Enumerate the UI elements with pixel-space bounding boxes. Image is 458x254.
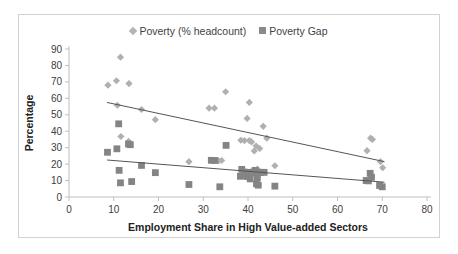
- data-point-poverty-headcount: [211, 105, 218, 112]
- y-tick-label: 20: [51, 159, 63, 170]
- data-point-poverty-gap: [186, 181, 193, 188]
- data-point-poverty-headcount: [246, 99, 253, 106]
- data-point-poverty-headcount: [363, 147, 370, 154]
- y-tick-label: 0: [56, 192, 62, 203]
- data-point-poverty-gap: [379, 183, 386, 190]
- y-axis-title: Percentage: [23, 95, 35, 152]
- data-point-poverty-headcount: [271, 162, 278, 169]
- x-tick-label: 30: [198, 204, 210, 215]
- data-point-poverty-headcount: [222, 88, 229, 95]
- data-point-poverty-gap: [117, 179, 124, 186]
- y-tick-label: 30: [51, 142, 63, 153]
- chart-frame: Poverty (% headcount) Poverty Gap 010203…: [18, 14, 440, 238]
- x-tick-label: 60: [332, 204, 344, 215]
- x-axis-title: Employment Share in High Value-added Sec…: [128, 221, 368, 233]
- x-tick-label: 50: [287, 204, 299, 215]
- x-tick-label: 40: [242, 204, 254, 215]
- y-tick-label: 10: [51, 175, 63, 186]
- data-point-poverty-headcount: [244, 115, 251, 122]
- data-point-poverty-gap: [368, 174, 375, 181]
- data-point-poverty-gap: [113, 145, 120, 152]
- data-point-poverty-gap: [128, 178, 135, 185]
- data-point-poverty-headcount: [260, 123, 267, 130]
- data-point-poverty-headcount: [113, 77, 120, 84]
- data-point-poverty-headcount: [185, 158, 192, 165]
- y-tick-label: 90: [51, 44, 63, 55]
- x-tick-label: 0: [66, 204, 72, 215]
- data-point-poverty-gap: [216, 183, 223, 190]
- data-point-poverty-headcount: [104, 82, 111, 89]
- y-tick-label: 80: [51, 60, 63, 71]
- data-point-poverty-gap: [116, 167, 123, 174]
- x-tick-label: 70: [377, 204, 389, 215]
- data-point-poverty-headcount: [152, 116, 159, 123]
- y-axis-ticks: 0102030405060708090: [51, 44, 69, 203]
- y-tick-label: 50: [51, 109, 63, 120]
- x-axis-ticks: 01020304050607080: [66, 197, 433, 215]
- trend-line: [107, 102, 384, 161]
- data-point-poverty-headcount: [379, 164, 386, 171]
- data-point-poverty-gap: [223, 142, 230, 149]
- data-point-poverty-headcount: [117, 133, 124, 140]
- x-tick-label: 20: [153, 204, 165, 215]
- data-point-poverty-gap: [104, 149, 111, 156]
- x-tick-label: 10: [108, 204, 120, 215]
- scatter-plot: 0102030405060708090 01020304050607080 Pe…: [19, 15, 441, 239]
- data-points: [104, 54, 386, 191]
- data-point-poverty-gap: [211, 157, 218, 164]
- data-point-poverty-gap: [255, 182, 262, 189]
- x-tick-label: 80: [421, 204, 433, 215]
- data-point-poverty-gap: [127, 141, 134, 148]
- data-point-poverty-headcount: [117, 54, 124, 61]
- y-tick-label: 40: [51, 126, 63, 137]
- y-tick-label: 70: [51, 76, 63, 87]
- data-point-poverty-headcount: [125, 80, 132, 87]
- data-point-poverty-gap: [271, 183, 278, 190]
- y-tick-label: 60: [51, 93, 63, 104]
- data-point-poverty-gap: [115, 120, 122, 127]
- data-point-poverty-gap: [247, 176, 254, 183]
- data-point-poverty-gap: [152, 169, 159, 176]
